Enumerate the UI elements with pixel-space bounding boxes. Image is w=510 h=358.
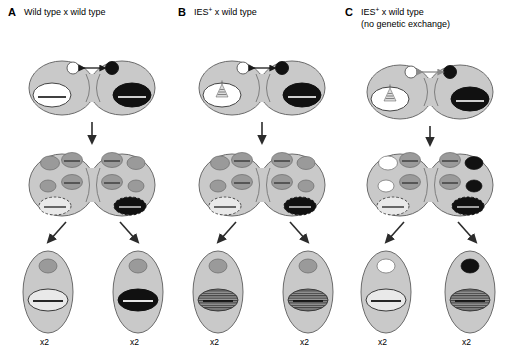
progeny-micronucleus: [209, 259, 227, 273]
panel-A-right-offspring-label: x2: [130, 337, 139, 347]
panel-C: C IES+ x wild type (no genetic exchange): [345, 6, 495, 347]
progeny-micronucleus: [377, 259, 395, 273]
panel-A-row-development: [29, 153, 155, 217]
panel-B-row-progeny: x2 x2: [193, 251, 333, 347]
panel-C-title: IES+ x wild type: [361, 6, 424, 17]
panel-C-letter: C: [345, 6, 353, 18]
panel-C-row-conjugation: [367, 65, 493, 119]
progeny-micronucleus: [129, 259, 147, 273]
progeny-macronucleus: [118, 289, 158, 311]
panel-A-title: Wild type x wild type: [24, 7, 106, 17]
micronucleus-light: [67, 62, 79, 74]
progeny-macronucleus: [198, 289, 238, 311]
arrow-to-progeny-left: [388, 222, 404, 240]
panel-A: A Wild type x wild type: [8, 6, 163, 347]
arrow-to-progeny-left: [220, 222, 236, 240]
progeny-macronucleus: [366, 289, 406, 311]
micronucleus-light: [405, 66, 417, 78]
micronucleus-light: [237, 62, 249, 74]
panel-B-title: IES+ x wild type: [194, 6, 257, 17]
micronucleus-dark: [444, 66, 457, 79]
micronucleus-dark: [106, 62, 119, 75]
panel-A-left-offspring-label: x2: [40, 337, 49, 347]
arrow-to-progeny-right: [458, 222, 474, 240]
panel-C-right-offspring-label: x2: [462, 337, 471, 347]
progeny-micronucleus: [299, 259, 317, 273]
panel-B-row-development: [199, 153, 325, 217]
panel-C-row-progeny: x2 x2: [361, 251, 495, 347]
progeny-micronucleus: [461, 259, 479, 273]
panel-B-left-offspring-label: x2: [210, 337, 219, 347]
progeny-macronucleus: [450, 289, 490, 311]
macronucleus-dark: [113, 83, 151, 107]
panel-B-right-offspring-label: x2: [300, 337, 309, 347]
panel-C-left-offspring-label: x2: [378, 337, 387, 347]
panel-C-subtitle: (no genetic exchange): [361, 19, 450, 29]
micronucleus-dark: [276, 62, 289, 75]
panel-C-row-development: [367, 153, 493, 217]
panel-A-row-progeny: x2 x2: [23, 251, 163, 347]
macronucleus-dark: [451, 87, 489, 111]
arrow-to-progeny-right: [120, 222, 136, 240]
macronucleus-light: [33, 83, 71, 107]
figure-canvas: A Wild type x wild type: [0, 0, 510, 358]
panel-A-letter: A: [8, 6, 16, 18]
arrow-to-progeny-right: [290, 222, 306, 240]
panel-B-letter: B: [178, 6, 186, 18]
arrow-to-progeny-left: [50, 222, 66, 240]
panel-A-row-conjugation: [29, 61, 155, 115]
progeny-micronucleus: [39, 259, 57, 273]
progeny-macronucleus: [288, 289, 328, 311]
macronucleus-dark: [283, 83, 321, 107]
progeny-macronucleus: [28, 289, 68, 311]
panel-B: B IES+ x wild type: [178, 6, 333, 347]
panel-B-row-conjugation: [199, 61, 325, 115]
